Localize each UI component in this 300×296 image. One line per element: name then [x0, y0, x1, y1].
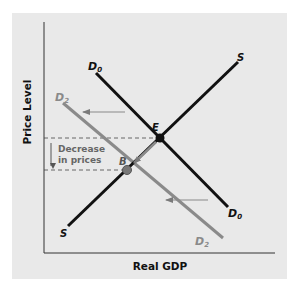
- d2-curve: [63, 103, 223, 238]
- d0-label-top: D0: [88, 60, 102, 74]
- point-e-label: E: [152, 122, 159, 133]
- x-axis-title: Real GDP: [133, 260, 188, 272]
- d0-label-bottom: D0: [228, 207, 242, 221]
- y-axis-title: Price Level: [21, 80, 33, 145]
- point-e: [156, 134, 165, 143]
- s-label-bottom: S: [60, 228, 67, 239]
- d2-label-top: D2: [55, 91, 69, 105]
- point-b-label: B: [119, 156, 127, 167]
- s-label-top: S: [237, 52, 244, 63]
- e-to-b-arrow: [134, 142, 156, 163]
- supply-demand-diagram: D0 D2 S S D0 D2 E B Decrease in prices R…: [0, 0, 300, 296]
- decrease-note-line2: in prices: [58, 155, 101, 165]
- decrease-note-line1: Decrease: [58, 144, 105, 154]
- d2-label-bottom: D2: [195, 235, 209, 249]
